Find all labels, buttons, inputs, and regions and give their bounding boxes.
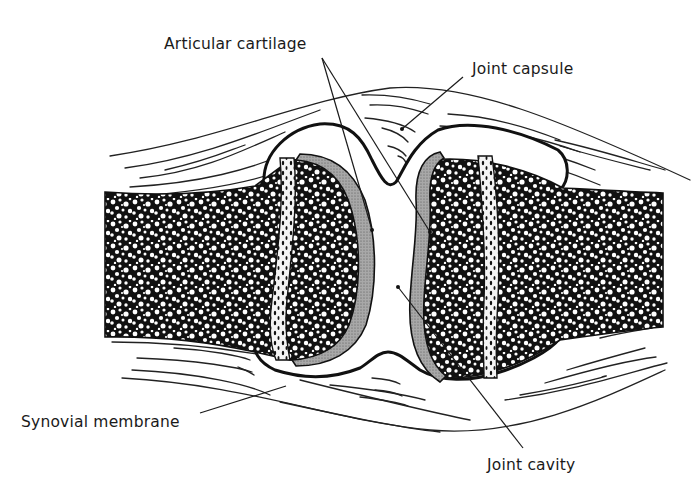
synovial-joint-diagram: Articular cartilage Joint capsule Synovi… <box>0 0 694 493</box>
left-bone <box>105 158 359 360</box>
right-bone <box>420 156 663 378</box>
label-joint-capsule: Joint capsule <box>471 60 573 78</box>
label-joint-cavity: Joint cavity <box>486 456 575 474</box>
label-articular-cartilage: Articular cartilage <box>164 35 307 53</box>
label-synovial-membrane: Synovial membrane <box>21 413 180 431</box>
leader-joint-capsule <box>402 77 463 129</box>
